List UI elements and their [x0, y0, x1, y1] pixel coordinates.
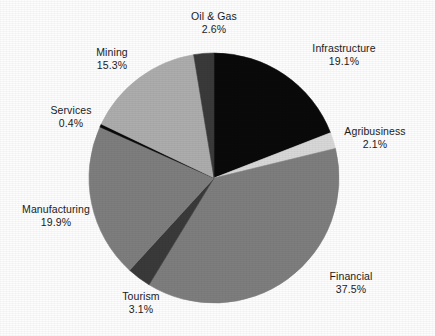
pie-label-services: Services 0.4%	[50, 104, 91, 129]
pie-slice-group	[89, 53, 339, 303]
pie-label-infrastructure-name: Infrastructure	[312, 42, 375, 55]
pie-label-financial-value: 37.5%	[330, 283, 373, 296]
pie-label-agribusiness: Agribusiness 2.1%	[344, 125, 405, 150]
pie-label-services-name: Services	[50, 104, 91, 117]
pie-label-agribusiness-value: 2.1%	[344, 138, 405, 151]
pie-label-infrastructure-value: 19.1%	[312, 55, 375, 68]
pie-label-agribusiness-name: Agribusiness	[344, 125, 405, 138]
pie-label-services-value: 0.4%	[50, 117, 91, 130]
pie-label-oil-and-gas: Oil & Gas 2.6%	[191, 10, 237, 35]
pie-label-tourism: Tourism 3.1%	[122, 290, 159, 315]
pie-label-financial: Financial 37.5%	[330, 270, 373, 295]
pie-label-mining: Mining 15.3%	[96, 46, 128, 71]
pie-label-manufacturing-name: Manufacturing	[22, 203, 90, 216]
pie-label-financial-name: Financial	[330, 270, 373, 283]
pie-label-tourism-value: 3.1%	[122, 303, 159, 316]
pie-label-tourism-name: Tourism	[122, 290, 159, 303]
pie-label-oil-and-gas-value: 2.6%	[191, 23, 237, 36]
pie-label-manufacturing: Manufacturing 19.9%	[22, 203, 90, 228]
pie-label-manufacturing-value: 19.9%	[22, 216, 90, 229]
pie-label-oil-and-gas-name: Oil & Gas	[191, 10, 237, 23]
pie-chart-figure: Infrastructure 19.1% Agribusiness 2.1% F…	[0, 0, 435, 336]
pie-label-mining-name: Mining	[96, 46, 128, 59]
pie-label-infrastructure: Infrastructure 19.1%	[312, 42, 375, 67]
pie-label-mining-value: 15.3%	[96, 59, 128, 72]
